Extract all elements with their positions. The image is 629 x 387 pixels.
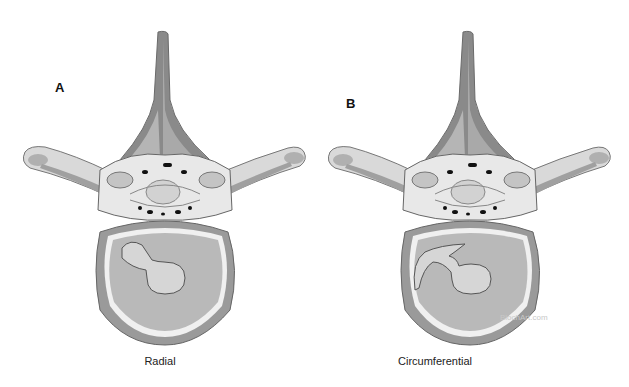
panel-caption: Radial xyxy=(60,355,260,367)
watermark: BlochArt.com xyxy=(500,313,548,322)
panel-radial-tear: A Radial xyxy=(0,0,314,387)
panel-letter-label: A xyxy=(55,80,64,95)
spinous-process xyxy=(120,31,210,160)
transverse-process-right xyxy=(525,147,610,198)
spinous-process xyxy=(425,31,515,160)
panel-letter-label: B xyxy=(346,96,355,111)
vertebra-radial-illustration xyxy=(0,0,314,387)
panel-circumferential-tear: B Circumferential xyxy=(305,0,619,387)
transverse-process-right xyxy=(220,147,305,198)
panel-caption: Circumferential xyxy=(335,355,535,367)
lamina-and-canal xyxy=(98,154,232,220)
vertebra-circumferential-illustration xyxy=(305,0,619,387)
lamina-and-canal xyxy=(403,154,537,220)
